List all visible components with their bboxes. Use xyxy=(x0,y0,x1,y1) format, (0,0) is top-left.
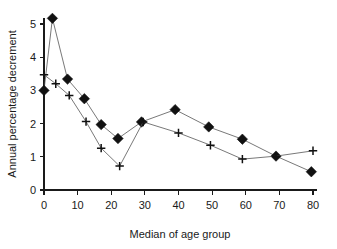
y-tick-label: 3 xyxy=(30,84,36,96)
series-line xyxy=(44,75,313,166)
x-tick-label: 80 xyxy=(307,199,319,211)
data-point-plus xyxy=(82,117,90,125)
data-point-diamond xyxy=(306,167,316,177)
data-point-diamond xyxy=(113,133,123,143)
data-series xyxy=(39,13,317,177)
y-tick-label: 5 xyxy=(30,18,36,30)
x-tick-label: 60 xyxy=(240,199,252,211)
data-point-plus xyxy=(40,71,48,79)
series-plus xyxy=(40,71,317,171)
data-point-diamond xyxy=(47,13,57,23)
x-tick-label: 20 xyxy=(105,199,117,211)
y-tick-label: 0 xyxy=(30,184,36,196)
x-tick-label: 30 xyxy=(139,199,151,211)
y-axis-title: Annual percentage decrement xyxy=(6,30,18,177)
data-point-diamond xyxy=(237,134,247,144)
y-tick-label: 2 xyxy=(30,118,36,130)
data-point-plus xyxy=(309,147,317,155)
series-diamond xyxy=(39,13,317,177)
data-point-diamond xyxy=(96,119,106,129)
data-point-plus xyxy=(238,155,246,163)
chart-plot: 01234501020304050607080 Median of age gr… xyxy=(0,0,337,249)
x-tick-label: 70 xyxy=(273,199,285,211)
axes xyxy=(44,18,317,190)
x-tick-label: 10 xyxy=(72,199,84,211)
data-point-plus xyxy=(206,141,214,149)
data-point-plus xyxy=(272,152,280,160)
y-tick-label: 1 xyxy=(30,151,36,163)
chart-container: 01234501020304050607080 Median of age gr… xyxy=(0,0,337,249)
y-tick-label: 4 xyxy=(30,51,36,63)
data-point-plus xyxy=(174,129,182,137)
data-point-diamond xyxy=(170,104,180,114)
data-point-diamond xyxy=(39,85,49,95)
x-tick-label: 0 xyxy=(41,199,47,211)
x-tick-label: 40 xyxy=(172,199,184,211)
x-axis-title: Median of age group xyxy=(130,228,231,240)
data-point-diamond xyxy=(204,122,214,132)
x-tick-label: 50 xyxy=(206,199,218,211)
